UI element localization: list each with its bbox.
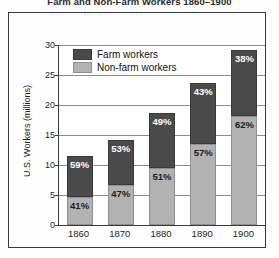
bar-label-nonfarm: 47% [111, 189, 130, 199]
bar-group-1860[interactable]: 41%59% [67, 156, 93, 225]
y-tick-label: 30 [35, 40, 55, 50]
x-tick-label: 1880 [140, 228, 181, 239]
y-tick-label: 5 [35, 190, 55, 200]
bar-segment-farm[interactable]: 38% [231, 50, 257, 117]
chart-panel: U.S. Workers (millions) 051015202530 41%… [8, 12, 266, 248]
bar-group-1900[interactable]: 62%38% [231, 50, 257, 225]
y-tick-label: 10 [35, 160, 55, 170]
bar-label-nonfarm: 51% [152, 172, 171, 182]
x-axis-tick-labels: 18601870188018901900 [58, 228, 265, 244]
bar-label-farm: 59% [70, 160, 89, 170]
y-tick-mark [55, 225, 59, 226]
bar-segment-farm[interactable]: 49% [149, 113, 175, 168]
y-tick-label: 20 [35, 100, 55, 110]
chart-title-strip: Farm and Non-Farm Workers 1860–1900 [0, 0, 279, 8]
bar-segment-nonfarm[interactable]: 41% [67, 197, 93, 225]
legend-item[interactable]: Farm workers [73, 48, 176, 60]
bar-group-1870[interactable]: 47%53% [108, 140, 134, 225]
x-tick-label: 1900 [223, 228, 264, 239]
bar-label-farm: 43% [194, 87, 213, 97]
bar-segment-farm[interactable]: 53% [108, 140, 134, 185]
bar-segment-farm[interactable]: 59% [67, 156, 93, 197]
y-axis-tick-labels: 051015202530 [33, 45, 55, 225]
x-tick-label: 1890 [182, 228, 223, 239]
legend-swatch-nonfarm-icon [73, 62, 92, 73]
x-tick-label: 1860 [58, 228, 99, 239]
bar-segment-nonfarm[interactable]: 62% [231, 116, 257, 225]
bar-label-nonfarm: 57% [194, 148, 213, 158]
bar-label-farm: 38% [235, 54, 254, 64]
legend-label: Non-farm workers [97, 62, 176, 73]
legend-item[interactable]: Non-farm workers [73, 61, 176, 73]
bar-group-1880[interactable]: 51%49% [149, 113, 175, 225]
bar-segment-nonfarm[interactable]: 51% [149, 168, 175, 225]
chart-legend: Farm workersNon-farm workers [71, 46, 180, 76]
legend-label: Farm workers [97, 49, 158, 60]
bar-label-farm: 49% [152, 117, 171, 127]
chart-title: Farm and Non-Farm Workers 1860–1900 [0, 0, 279, 8]
bar-segment-farm[interactable]: 43% [190, 83, 216, 144]
bar-label-farm: 53% [111, 144, 130, 154]
bar-label-nonfarm: 41% [70, 201, 89, 211]
bar-segment-nonfarm[interactable]: 57% [190, 144, 216, 225]
legend-swatch-farm-icon [73, 49, 92, 60]
y-axis-title-label: U.S. Workers (millions) [22, 85, 32, 177]
bar-segment-nonfarm[interactable]: 47% [108, 185, 134, 225]
bar-label-nonfarm: 62% [235, 120, 254, 130]
y-tick-label: 0 [35, 220, 55, 230]
bar-group-1890[interactable]: 57%43% [190, 83, 216, 225]
chart-figure: Farm and Non-Farm Workers 1860–1900 U.S.… [0, 0, 279, 258]
x-tick-label: 1870 [99, 228, 140, 239]
y-tick-label: 25 [35, 70, 55, 80]
y-tick-label: 15 [35, 130, 55, 140]
